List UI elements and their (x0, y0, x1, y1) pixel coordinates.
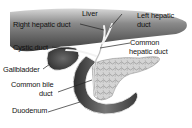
label-left-hepatic-duct-2: duct (137, 21, 151, 29)
pancreas-shape (92, 57, 160, 100)
label-liver: Liver (82, 10, 98, 18)
label-gallbladder: Gallbladder (3, 66, 40, 74)
label-common-bile-duct-2: duct (39, 90, 53, 98)
biliary-anatomy-diagram: Liver Right hepatic duct Left hepatic du… (0, 0, 192, 128)
label-common-bile-duct-1: Common bile (11, 81, 53, 89)
label-common-hepatic-duct-2: hepatic duct (129, 48, 168, 56)
label-right-hepatic-duct: Right hepatic duct (13, 21, 70, 29)
label-left-hepatic-duct-1: Left hepatic (137, 12, 174, 20)
label-cystic-duct: Cystic duct (13, 44, 48, 52)
label-duodenum: Duodenum (12, 107, 47, 115)
label-common-hepatic-duct-1: Common (130, 39, 159, 47)
